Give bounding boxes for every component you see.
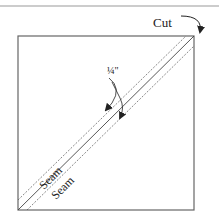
cut-label: Cut	[153, 15, 172, 30]
cut-arrow-icon	[181, 16, 200, 32]
diagram-canvas: Cut ¼" Seam Seam	[0, 0, 219, 224]
seam-allowance-arrow-left-icon	[106, 78, 116, 110]
seam-allowance-label: ¼"	[107, 65, 119, 76]
